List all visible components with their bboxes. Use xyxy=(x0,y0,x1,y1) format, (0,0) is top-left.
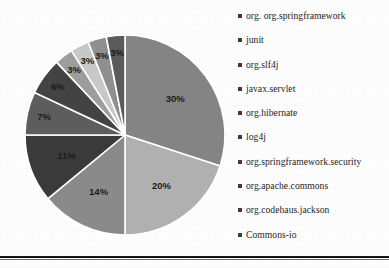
pie-chart-svg: 30%20%14%11%7%6%3%3%3%3% xyxy=(10,22,240,248)
legend-swatch-icon xyxy=(238,111,242,115)
legend-item-label: org.apache.commons xyxy=(246,180,328,191)
legend-item[interactable]: org.springframework.security xyxy=(238,156,388,180)
legend-item-label: log4j xyxy=(246,131,266,142)
legend-item[interactable]: org.slf4j xyxy=(238,59,388,83)
pie-data-label: 11% xyxy=(57,150,76,161)
legend-swatch-icon xyxy=(238,184,242,188)
footer-divider-rule xyxy=(0,256,389,258)
pie-chart-area: 30%20%14%11%7%6%3%3%3%3% xyxy=(10,22,240,248)
legend-item[interactable]: org. org.springframework xyxy=(238,10,388,34)
pie-data-label: 7% xyxy=(37,111,51,122)
pie-data-label: 30% xyxy=(166,93,186,104)
pie-slice-group xyxy=(25,35,225,235)
chart-page: 30%20%14%11%7%6%3%3%3%3% org. org.spring… xyxy=(0,0,389,268)
pie-data-label: 3% xyxy=(80,55,94,66)
pie-data-label: 14% xyxy=(89,186,109,197)
legend-item-label: junit xyxy=(246,34,264,45)
legend-item[interactable]: junit xyxy=(238,34,388,58)
legend-item[interactable]: log4j xyxy=(238,131,388,155)
legend-swatch-icon xyxy=(238,160,242,164)
legend-item-label: org.slf4j xyxy=(246,59,279,70)
legend-swatch-icon xyxy=(238,208,242,212)
legend-item-label: org.springframework.security xyxy=(246,156,361,167)
legend-item-label: org.codehaus.jackson xyxy=(246,204,329,215)
legend-item[interactable]: org.apache.commons xyxy=(238,180,388,204)
legend-swatch-icon xyxy=(238,135,242,139)
legend-item-label: Commons-io xyxy=(246,229,297,240)
legend-swatch-icon xyxy=(238,14,242,18)
legend-item-label: org. org.springframework xyxy=(246,10,346,21)
pie-data-label: 20% xyxy=(152,180,172,191)
legend-item-label: javax.servlet xyxy=(246,83,295,94)
pie-data-label: 3% xyxy=(95,50,109,61)
pie-data-label: 3% xyxy=(67,64,81,75)
legend-item[interactable]: Commons-io xyxy=(238,229,388,253)
legend-item[interactable]: org.hibernate xyxy=(238,107,388,131)
legend-item[interactable]: org.codehaus.jackson xyxy=(238,204,388,228)
pie-data-label: 6% xyxy=(51,81,65,92)
legend-swatch-icon xyxy=(238,63,242,67)
legend-item-label: org.hibernate xyxy=(246,107,297,118)
legend-swatch-icon xyxy=(238,233,242,237)
chart-legend: org. org.springframeworkjunitorg.slf4jja… xyxy=(238,10,388,258)
pie-data-label: 3% xyxy=(110,47,124,58)
legend-swatch-icon xyxy=(238,38,242,42)
legend-item[interactable]: javax.servlet xyxy=(238,83,388,107)
legend-swatch-icon xyxy=(238,87,242,91)
footer-divider-rule-shadow xyxy=(0,259,389,260)
